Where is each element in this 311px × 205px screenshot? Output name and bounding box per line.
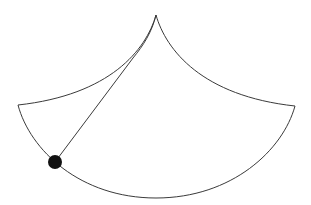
left-cycloid-cheek [18, 15, 156, 105]
right-cycloid-cheek [156, 15, 295, 106]
cycloidal-pendulum-diagram [0, 0, 311, 205]
bob-path-cycloid [18, 105, 295, 198]
pendulum-string [55, 15, 156, 162]
diagram-svg [0, 0, 311, 205]
pendulum-bob [48, 155, 62, 169]
